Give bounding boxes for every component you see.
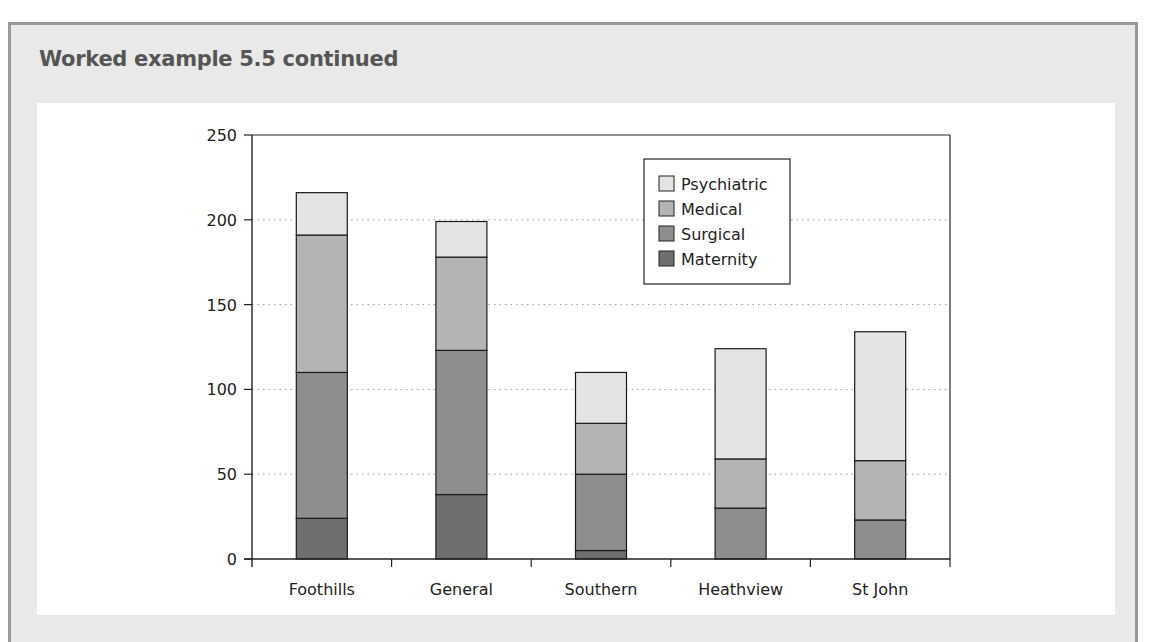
y-tick-label: 50: [217, 465, 237, 484]
example-title: Worked example 5.5 continued: [39, 47, 398, 71]
legend-label-surgical: Surgical: [681, 225, 745, 244]
bar-segment-maternity: [296, 518, 347, 559]
chart-panel: 050100150200250FoothillsGeneralSouthernH…: [37, 103, 1115, 615]
legend-swatch-medical: [659, 201, 674, 216]
bar-segment-medical: [855, 461, 906, 520]
stacked-bar-chart: 050100150200250FoothillsGeneralSouthernH…: [37, 103, 1115, 615]
bar-segment-surgical: [436, 350, 487, 494]
legend-swatch-psychiatric: [659, 176, 674, 191]
legend-label-maternity: Maternity: [681, 250, 757, 269]
bar-segment-surgical: [855, 520, 906, 559]
x-category-label: Southern: [565, 580, 638, 599]
y-tick-label: 200: [206, 211, 237, 230]
y-tick-label: 0: [227, 550, 237, 569]
bar-segment-medical: [436, 257, 487, 350]
bar-segment-psychiatric: [296, 193, 347, 235]
bar-segment-psychiatric: [436, 221, 487, 257]
x-category-label: Heathview: [698, 580, 783, 599]
bar-segment-psychiatric: [855, 332, 906, 461]
legend-label-medical: Medical: [681, 200, 742, 219]
bar-segment-surgical: [715, 508, 766, 559]
legend-swatch-maternity: [659, 251, 674, 266]
bar-segment-surgical: [576, 474, 627, 550]
x-category-label: Foothills: [289, 580, 355, 599]
bar-segment-psychiatric: [576, 372, 627, 423]
y-tick-label: 250: [206, 126, 237, 145]
bar-segment-surgical: [296, 372, 347, 518]
worked-example-frame: Worked example 5.5 continued 05010015020…: [8, 22, 1138, 642]
y-tick-label: 150: [206, 296, 237, 315]
legend-label-psychiatric: Psychiatric: [681, 175, 767, 194]
bar-segment-maternity: [576, 551, 627, 559]
bar-segment-psychiatric: [715, 349, 766, 459]
legend-swatch-surgical: [659, 226, 674, 241]
bar-segment-medical: [715, 459, 766, 508]
bar-segment-medical: [576, 423, 627, 474]
x-category-label: General: [430, 580, 493, 599]
bar-segment-medical: [296, 235, 347, 372]
bar-segment-maternity: [436, 495, 487, 559]
y-tick-label: 100: [206, 380, 237, 399]
x-category-label: St John: [852, 580, 908, 599]
